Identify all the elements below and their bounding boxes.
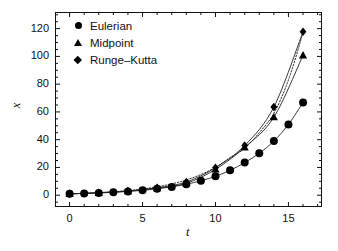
series-line-midpoint — [70, 55, 303, 194]
y-tick-label: 100 — [15, 49, 49, 61]
y-tick-label: 20 — [15, 160, 49, 172]
data-point-midpoint — [270, 113, 278, 120]
data-point-eulerian — [197, 177, 205, 185]
data-point-midpoint — [299, 51, 307, 58]
legend-item-eulerian: Eulerian — [70, 18, 157, 33]
x-tick-label: 0 — [60, 212, 80, 224]
circle-marker-icon — [70, 22, 86, 29]
x-axis-title: t — [186, 225, 189, 240]
triangle-marker-icon — [70, 39, 86, 46]
legend-label: Eulerian — [90, 20, 132, 32]
data-point-eulerian — [241, 159, 249, 167]
data-point-eulerian — [284, 120, 292, 128]
x-tick-label: 15 — [278, 212, 298, 224]
data-point-eulerian — [299, 98, 307, 106]
data-point-eulerian — [255, 149, 263, 157]
data-point-runge-kutta — [300, 28, 307, 36]
legend-item-runge-kutta: Runge–Kutta — [70, 52, 157, 67]
data-point-runge-kutta — [270, 103, 277, 111]
x-tick-label: 5 — [133, 212, 153, 224]
legend-item-midpoint: Midpoint — [70, 35, 157, 50]
data-point-eulerian — [139, 186, 147, 194]
y-tick-label: 40 — [15, 133, 49, 145]
data-point-eulerian — [211, 172, 219, 180]
data-point-eulerian — [109, 188, 117, 196]
y-tick-label: 0 — [15, 188, 49, 200]
data-point-eulerian — [226, 166, 234, 174]
chart-figure: Eulerian Midpoint Runge–Kutta t x 051015… — [0, 0, 338, 251]
y-tick-label: 60 — [15, 105, 49, 117]
data-point-eulerian — [168, 183, 176, 191]
y-tick-label: 80 — [15, 77, 49, 89]
data-point-eulerian — [80, 189, 88, 197]
legend-label: Runge–Kutta — [90, 54, 157, 66]
y-tick-label: 120 — [15, 22, 49, 34]
x-tick-label: 10 — [205, 212, 225, 224]
diamond-marker-icon — [70, 57, 86, 63]
legend-label: Midpoint — [90, 37, 133, 49]
data-point-eulerian — [270, 137, 278, 145]
chart-legend: Eulerian Midpoint Runge–Kutta — [70, 18, 157, 69]
